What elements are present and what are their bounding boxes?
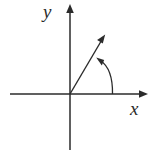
angle-arc-path [101,61,113,95]
coordinate-axes-figure: y x [0,0,156,154]
x-axis-arrowhead-icon [139,90,148,98]
x-axis-label: x [130,99,138,118]
angle-arc-arrowhead-icon [96,58,104,66]
y-axis-label: y [43,2,51,21]
terminal-ray-arrowhead-icon [97,35,105,44]
y-axis-arrowhead-icon [66,4,74,13]
axes-svg-canvas [0,0,156,154]
terminal-ray-line [70,41,102,95]
